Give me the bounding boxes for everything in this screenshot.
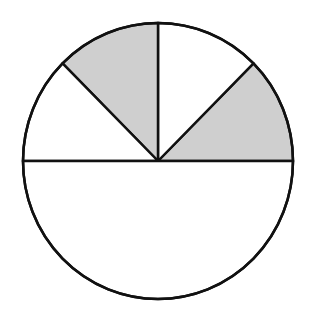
bottom-half-sector	[23, 161, 293, 299]
partitioned-circle-diagram	[0, 0, 314, 327]
